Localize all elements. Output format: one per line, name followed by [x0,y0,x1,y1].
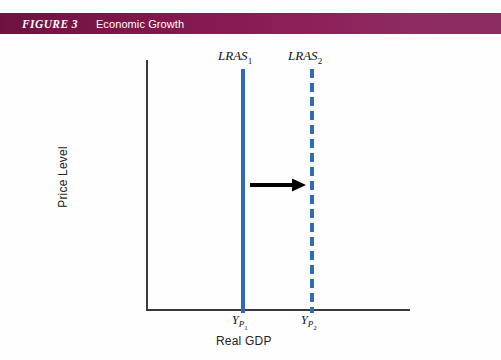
chart-plot-area: LRAS1 LRAS2 YP1 YP2 Price Level Real GDP [0,0,501,360]
rightward-shift-arrow [250,178,306,192]
figure-page: FIGURE 3 Economic Growth LRAS1 LRAS2 YP1… [0,0,501,360]
yp2-subsub: 2 [313,324,317,332]
lras2-curve-label: LRAS2 [288,48,322,66]
x-axis-title: Real GDP [216,334,272,348]
yp1-base: Y [232,313,239,327]
lras2-curve [310,69,314,313]
y-axis-title: Price Level [56,107,70,247]
arrow-head [292,179,306,192]
lras1-label-subscript: 1 [248,56,253,66]
lras1-label-base: LRAS [218,48,248,63]
lras1-curve-label: LRAS1 [218,48,252,66]
lras1-curve [241,69,245,313]
yp2-base: Y [301,313,308,327]
y-axis-line [146,60,148,311]
x-tick-label-yp1: YP1 [232,313,248,332]
lras2-label-base: LRAS [288,48,318,63]
x-axis-line [146,309,410,311]
yp1-subsub: 1 [244,324,248,332]
x-tick-label-yp2: YP2 [301,313,317,332]
lras2-label-subscript: 2 [318,56,323,66]
